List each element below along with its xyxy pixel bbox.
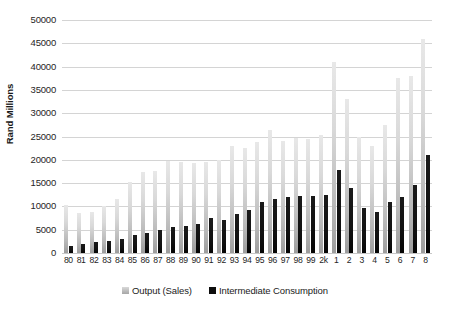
bar-group[interactable] — [370, 20, 379, 253]
bar-output-sales[interactable] — [268, 130, 272, 253]
bar-output-sales[interactable] — [64, 205, 68, 253]
bar-group[interactable] — [153, 20, 162, 253]
bar-output-sales[interactable] — [166, 161, 170, 253]
bar-group[interactable] — [115, 20, 124, 253]
y-axis-tick-label: 50000 — [10, 15, 56, 25]
bar-output-sales[interactable] — [396, 78, 400, 253]
bar-output-sales[interactable] — [345, 99, 349, 253]
bar-intermediate-consumption[interactable] — [247, 210, 251, 253]
bar-group[interactable] — [230, 20, 239, 253]
bar-group[interactable] — [319, 20, 328, 253]
bar-output-sales[interactable] — [319, 135, 323, 253]
bar-output-sales[interactable] — [383, 125, 387, 253]
bar-group[interactable] — [255, 20, 264, 253]
bar-output-sales[interactable] — [294, 138, 298, 253]
bar-group[interactable] — [383, 20, 392, 253]
bar-group[interactable] — [243, 20, 252, 253]
bar-intermediate-consumption[interactable] — [235, 214, 239, 253]
x-axis-tick-label: 84 — [113, 256, 126, 265]
bar-output-sales[interactable] — [409, 76, 413, 253]
bar-output-sales[interactable] — [204, 162, 208, 253]
bar-group[interactable] — [281, 20, 290, 253]
bar-output-sales[interactable] — [90, 212, 94, 253]
bar-output-sales[interactable] — [332, 62, 336, 253]
bar-group[interactable] — [179, 20, 188, 253]
bar-output-sales[interactable] — [141, 172, 145, 253]
bar-output-sales[interactable] — [243, 148, 247, 253]
bar-output-sales[interactable] — [230, 146, 234, 253]
y-axis-tick-label: 30000 — [10, 108, 56, 118]
bar-intermediate-consumption[interactable] — [209, 218, 213, 253]
bar-intermediate-consumption[interactable] — [222, 220, 226, 253]
legend-item[interactable]: Output (Sales) — [122, 285, 192, 296]
bar-group[interactable] — [102, 20, 111, 253]
bar-group[interactable] — [128, 20, 137, 253]
bar-intermediate-consumption[interactable] — [324, 195, 328, 253]
bar-chart: Rand Millions 50000450004000035000300002… — [0, 0, 450, 314]
bar-group[interactable] — [357, 20, 366, 253]
chart-legend: Output (Sales)Intermediate Consumption — [0, 285, 450, 296]
bar-output-sales[interactable] — [102, 206, 106, 253]
bar-intermediate-consumption[interactable] — [81, 244, 85, 253]
bar-intermediate-consumption[interactable] — [311, 196, 315, 253]
bar-intermediate-consumption[interactable] — [298, 196, 302, 253]
legend-item[interactable]: Intermediate Consumption — [209, 285, 328, 296]
bar-group[interactable] — [141, 20, 150, 253]
bar-group[interactable] — [90, 20, 99, 253]
x-axis-tick-label: 86 — [139, 256, 152, 265]
bar-group[interactable] — [77, 20, 86, 253]
bar-output-sales[interactable] — [421, 39, 425, 253]
bar-output-sales[interactable] — [115, 199, 119, 253]
bar-intermediate-consumption[interactable] — [158, 230, 162, 253]
bar-intermediate-consumption[interactable] — [133, 235, 137, 253]
bar-output-sales[interactable] — [179, 162, 183, 253]
x-axis-tick-label: 96 — [266, 256, 279, 265]
bar-intermediate-consumption[interactable] — [69, 246, 73, 253]
bar-group[interactable] — [217, 20, 226, 253]
bar-output-sales[interactable] — [370, 146, 374, 253]
bar-intermediate-consumption[interactable] — [375, 212, 379, 253]
bar-intermediate-consumption[interactable] — [400, 197, 404, 253]
bar-group[interactable] — [268, 20, 277, 253]
x-axis-tick-label: 82 — [88, 256, 101, 265]
bar-output-sales[interactable] — [357, 137, 361, 254]
bar-output-sales[interactable] — [153, 171, 157, 253]
bar-intermediate-consumption[interactable] — [184, 226, 188, 253]
bar-intermediate-consumption[interactable] — [388, 202, 392, 253]
bar-group[interactable] — [332, 20, 341, 253]
x-axis-tick-label: 2 — [343, 256, 356, 265]
bar-output-sales[interactable] — [217, 160, 221, 253]
bar-group[interactable] — [306, 20, 315, 253]
bar-output-sales[interactable] — [255, 142, 259, 253]
x-axis-tick-label: 83 — [100, 256, 113, 265]
bars-layer — [62, 20, 432, 253]
bar-intermediate-consumption[interactable] — [260, 202, 264, 253]
bar-group[interactable] — [204, 20, 213, 253]
bar-group[interactable] — [64, 20, 73, 253]
bar-intermediate-consumption[interactable] — [337, 170, 341, 253]
bar-group[interactable] — [421, 20, 430, 253]
bar-group[interactable] — [396, 20, 405, 253]
bar-intermediate-consumption[interactable] — [94, 242, 98, 253]
bar-intermediate-consumption[interactable] — [426, 155, 430, 253]
bar-intermediate-consumption[interactable] — [349, 188, 353, 253]
bar-intermediate-consumption[interactable] — [273, 199, 277, 253]
bar-intermediate-consumption[interactable] — [362, 208, 366, 253]
bar-group[interactable] — [192, 20, 201, 253]
bar-intermediate-consumption[interactable] — [413, 185, 417, 253]
bar-intermediate-consumption[interactable] — [145, 233, 149, 254]
bar-intermediate-consumption[interactable] — [107, 241, 111, 253]
bar-group[interactable] — [345, 20, 354, 253]
bar-output-sales[interactable] — [306, 139, 310, 253]
bar-output-sales[interactable] — [192, 163, 196, 253]
bar-intermediate-consumption[interactable] — [196, 224, 200, 253]
bar-intermediate-consumption[interactable] — [171, 227, 175, 253]
bar-group[interactable] — [294, 20, 303, 253]
bar-output-sales[interactable] — [77, 213, 81, 253]
bar-group[interactable] — [166, 20, 175, 253]
bar-output-sales[interactable] — [281, 141, 285, 253]
bar-intermediate-consumption[interactable] — [286, 197, 290, 253]
bar-output-sales[interactable] — [128, 182, 132, 253]
bar-group[interactable] — [409, 20, 418, 253]
bar-intermediate-consumption[interactable] — [120, 239, 124, 253]
